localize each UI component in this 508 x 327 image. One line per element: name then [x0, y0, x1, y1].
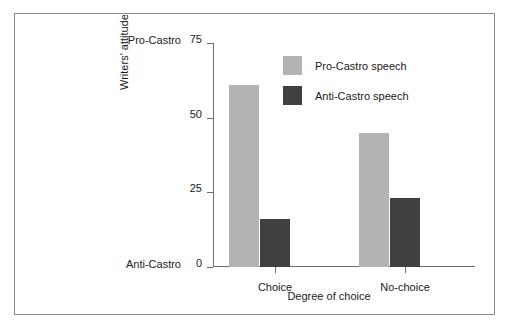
- legend-item-pro-castro-speech: Pro-Castro speech: [283, 55, 409, 76]
- y-tick-25: 25: [207, 192, 213, 193]
- bar-choice-pro-castro-speech: [229, 85, 259, 267]
- y-tick-label-0: 0: [196, 258, 202, 269]
- y-tick-50: 50: [207, 118, 213, 119]
- x-tick-choice: Choice: [275, 267, 276, 273]
- legend-label-pro-castro-speech: Pro-Castro speech: [315, 60, 407, 72]
- y-tick-label-75: 75: [190, 34, 202, 45]
- bar-no-choice-anti-castro-speech: [390, 198, 420, 267]
- y-tick-label-25: 25: [190, 183, 202, 194]
- y-anchor-label-pro-castro: Pro-Castro: [128, 35, 181, 46]
- legend-swatch-anti-castro-speech: [283, 86, 302, 105]
- bar-no-choice-pro-castro-speech: [359, 133, 389, 267]
- y-axis-title: Writers' attitude: [118, 74, 130, 90]
- x-axis-title: Degree of choice: [198, 290, 460, 302]
- legend: Pro-Castro speech Anti-Castro speech: [283, 55, 409, 115]
- y-tick-75: 75 Pro-Castro: [207, 43, 213, 44]
- x-tick-no-choice: No-choice: [405, 267, 406, 273]
- bar-choice-anti-castro-speech: [260, 219, 290, 267]
- y-axis-line: [213, 43, 214, 267]
- legend-label-anti-castro-speech: Anti-Castro speech: [315, 90, 409, 102]
- y-tick-label-50: 50: [190, 109, 202, 120]
- legend-item-anti-castro-speech: Anti-Castro speech: [283, 85, 409, 106]
- legend-swatch-pro-castro-speech: [283, 56, 302, 75]
- y-anchor-label-anti-castro: Anti-Castro: [126, 259, 181, 270]
- figure-frame: 75 Pro-Castro 50 25 0 Anti-Castro Choice…: [14, 13, 495, 315]
- y-tick-0: 0 Anti-Castro: [207, 267, 213, 268]
